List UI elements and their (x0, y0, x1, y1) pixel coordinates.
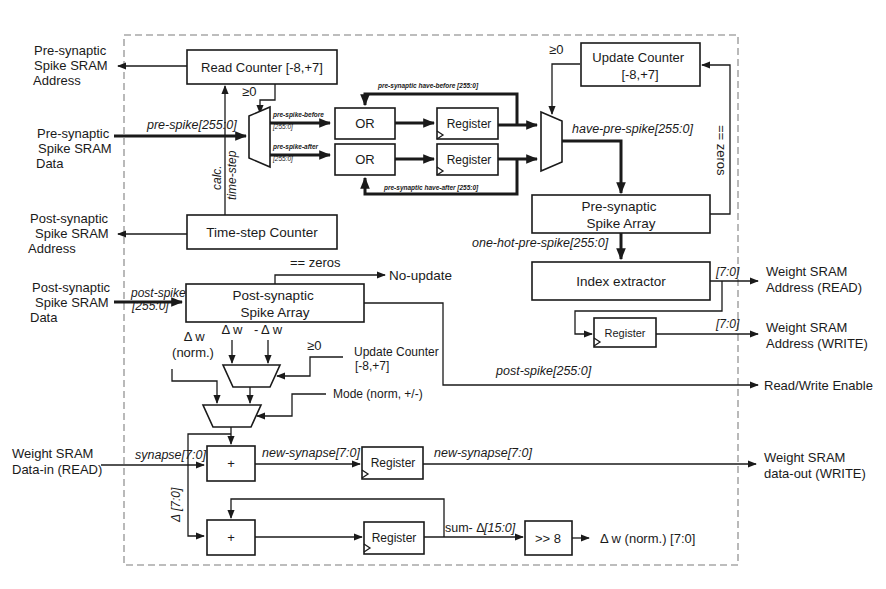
geq0-read-label: ≥0 (242, 84, 256, 99)
pre-spike-before-label: pre-spike-before (272, 111, 324, 119)
or-bottom-label: OR (355, 152, 375, 167)
have-after-label: pre-synaptic have-after [255:0] (383, 184, 479, 192)
synapse-label: synapse[7:0] (135, 448, 206, 462)
ext-weight-data-out-label: Weight SRAM data-out (WRITE) (764, 450, 866, 481)
post-spike-in-width: [255:0] (131, 299, 169, 313)
ext-post-addr-label: Post-synaptic Spike SRAM Address (28, 211, 112, 256)
adder-top-label: + (227, 456, 235, 471)
eq-zeros-post-label: == zeros (290, 255, 341, 270)
update-counter-ref-label: Update Counter [-8,+7] (354, 345, 442, 373)
delta-label: Δ [7:0] (169, 487, 183, 523)
pre-spike-after-width: [255:0] (272, 155, 293, 163)
sum-delta-label: sum- Δ (445, 521, 485, 535)
ext-weight-addr-write-label: Weight SRAM Address (WRITE) (766, 320, 868, 351)
post-spike-out-label: post-spike[255:0] (495, 364, 592, 378)
new-synapse-label-a: new-synapse[7:0] (262, 446, 361, 460)
mode-mux (203, 405, 261, 427)
dw-norm-label: Δ w (norm.) (172, 329, 214, 360)
have-pre-spike-bus (562, 141, 621, 193)
one-hot-label: one-hot-pre-spike[255:0] (472, 236, 609, 250)
ext-rw-enable-label: Read/Write Enable (764, 378, 873, 393)
have-before-label: pre-synaptic have-before [255:0] (377, 82, 479, 90)
have-pre-spike-label: have-pre-spike[255:0] (572, 122, 693, 136)
new-synapse-label-b: new-synapse[7:0] (434, 446, 533, 460)
synapse-register-label: Register (371, 456, 416, 470)
post-spike-in-label: post-spike (130, 286, 186, 300)
geq0-mode-label: ≥0 (307, 338, 321, 353)
ext-post-data-label: Post-synaptic Spike SRAM Data (30, 280, 114, 325)
stdp-learning-circuit-diagram: Pre-synaptic Spike SRAM Address Pre-syna… (0, 0, 886, 589)
dw-norm-out-label: Δ w (norm.) [7:0] (600, 531, 695, 546)
shift-label: >> 8 (535, 531, 561, 546)
addr-write-width-label: [7:0] (715, 317, 740, 331)
sign-mux (223, 365, 280, 387)
mode-wire (257, 394, 326, 416)
or-top-label: OR (355, 116, 375, 131)
mode-label: Mode (norm, +/-) (333, 387, 423, 401)
update-counter-sign-wire (552, 64, 580, 114)
no-update-label: No-update (389, 268, 452, 283)
eq-zeros-right-label: == zeros (714, 125, 729, 176)
no-update-wire (275, 275, 385, 284)
ext-pre-addr-label: Pre-synaptic Spike SRAM Address (33, 43, 111, 88)
ext-weight-addr-read-label: Weight SRAM Address (READ) (766, 264, 862, 295)
read-counter-label: Read Counter [-8,+7] (201, 60, 323, 75)
pre-spike-label: pre-spike[255:0] (146, 118, 237, 132)
register-top-label: Register (447, 117, 492, 131)
addr-register-label: Register (605, 327, 646, 339)
pre-spike-before-width: [255:0] (272, 123, 293, 131)
addr-read-width-label: [7:0] (715, 265, 740, 279)
index-extractor-label: Index extractor (576, 274, 666, 289)
ext-weight-data-in-label: Weight SRAM Data-in (READ) (12, 446, 102, 477)
calc-label: calc. (210, 165, 224, 190)
geq0-update-label: ≥0 (549, 42, 563, 57)
dw-label: Δ w (222, 322, 244, 337)
dw-norm-wire (172, 369, 217, 403)
time-step-label: time-step (225, 150, 239, 200)
sum-register-label: Register (372, 531, 417, 545)
pre-spike-after-label: pre-spike-after (272, 143, 319, 151)
sum-delta-width: [15:0] (483, 521, 516, 535)
register-bottom-label: Register (447, 153, 492, 167)
have-pre-spike-mux (541, 112, 562, 171)
neg-dw-label: - Δ w (254, 322, 283, 337)
adder-bottom-label: + (227, 530, 235, 545)
time-step-counter-label: Time-step Counter (206, 225, 318, 240)
pre-spike-demux (249, 107, 270, 167)
ext-pre-data-label: Pre-synaptic Spike SRAM Data (36, 126, 115, 171)
update-counter-sign-mux-wire (277, 357, 343, 376)
